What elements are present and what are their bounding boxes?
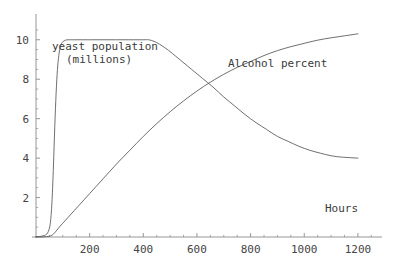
x-axis-tick-label: 1000 [291,243,318,256]
y-axis-tick-label: 10 [4,33,29,46]
y-axis-tick-label: 6 [4,112,29,125]
hours-axis-label: Hours [325,202,358,215]
x-axis-ticks [49,233,371,237]
y-axis-tick-label: 4 [4,152,29,165]
y-axis-tick-label: 2 [4,191,29,204]
x-axis-tick-label: 200 [80,243,100,256]
yeast-population-label: yeast population(millions) [52,40,158,66]
yeast-population-label-line1: yeast population [52,40,158,53]
chart-container: 20040060080010001200 246810 yeast popula… [0,0,394,264]
x-axis-tick-label: 400 [133,243,153,256]
x-axis-tick-label: 600 [187,243,207,256]
yeast-population-label-line2: (millions) [52,53,158,66]
y-axis-tick-label: 8 [4,73,29,86]
x-axis-tick-label: 800 [241,243,261,256]
alcohol-percent-label: Alcohol percent [228,57,327,70]
y-axis-ticks [36,30,40,227]
x-axis-tick-label: 1200 [345,243,372,256]
